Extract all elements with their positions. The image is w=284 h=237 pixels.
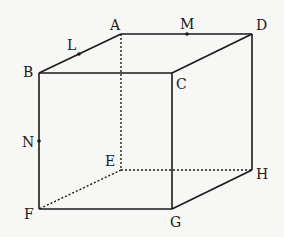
edge-EF [39,170,121,209]
point-M [185,32,189,36]
label-G: G [170,214,181,230]
label-E: E [105,153,115,169]
label-M: M [180,16,194,32]
label-L: L [67,37,76,53]
label-H: H [256,166,268,182]
label-N: N [22,134,34,150]
edge-CD [172,34,252,73]
label-C: C [176,76,187,92]
cube-diagram: A L B M D C N E F G H [0,0,284,237]
edge-GH [172,170,252,209]
label-B: B [23,64,33,80]
point-N [37,139,41,143]
point-L [77,52,81,56]
label-D: D [256,17,267,33]
label-A: A [109,17,121,33]
label-F: F [24,206,34,222]
